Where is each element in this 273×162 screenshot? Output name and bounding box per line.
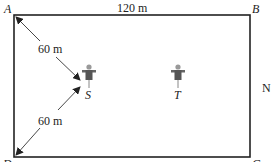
distance-label-a-s: 60 m [38, 42, 63, 56]
arrow-a-to-s-lower [56, 57, 80, 80]
point-label-s: S [85, 88, 91, 102]
corner-label-a: A [3, 2, 12, 16]
corner-label-c: C [252, 157, 261, 162]
corner-label-d: D [2, 157, 12, 162]
distance-label-d-s: 60 m [38, 114, 63, 128]
field-diagram: A B C D 120 m 60 m 60 m S T N [0, 0, 273, 162]
corner-label-b: B [252, 2, 260, 16]
point-label-t: T [174, 88, 182, 102]
top-edge-dimension: 120 m [117, 1, 148, 15]
arrow-d-to-s-lower [16, 128, 40, 155]
arrow-a-to-s-upper [16, 17, 40, 41]
scarecrow-icon [171, 64, 185, 88]
side-label-n: N [262, 81, 271, 95]
arrow-d-to-s-upper [58, 87, 80, 110]
scarecrow-icon [82, 64, 96, 88]
field-rectangle [14, 15, 250, 157]
